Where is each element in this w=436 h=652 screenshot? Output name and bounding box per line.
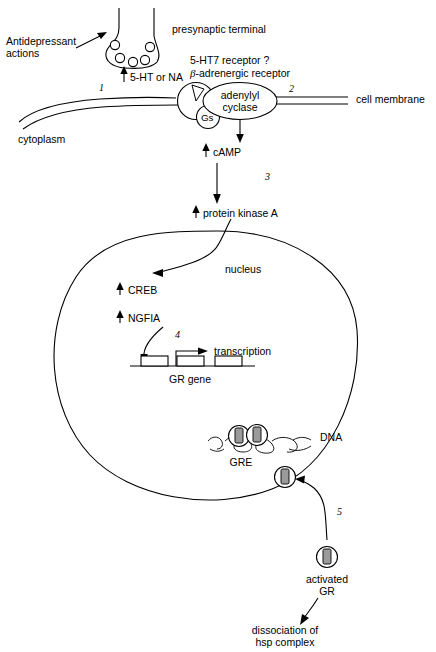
synaptic-vesicle: [110, 40, 119, 49]
antidepressant-actions-label-line1: Antidepressant: [6, 35, 76, 47]
synaptic-vesicle: [145, 42, 154, 51]
step-number-1: 1: [99, 82, 104, 93]
adenylyl-cyclase-label-line1: adenylyl: [221, 89, 260, 101]
dna-gre-group: [208, 425, 311, 454]
activated-gr-group: [317, 547, 338, 568]
receptor-complex-group: Gs adenylyl cyclase: [178, 83, 278, 129]
dna-strand-tail: [293, 437, 311, 440]
antidepressant-arrow: [76, 32, 107, 48]
activated-gr-label-line2: GR: [319, 585, 335, 597]
ngfia-increase-arrow: [116, 310, 123, 323]
step-number-3: 3: [264, 171, 270, 182]
diagram-canvas: presynaptic terminal Antidepressant acti…: [0, 0, 436, 652]
gr-gene-label: GR gene: [169, 373, 211, 385]
gr-gene-exon: [177, 356, 204, 366]
gr-receptor-core: [281, 469, 289, 484]
activated-gr-translocation-arrow: [295, 476, 327, 541]
dna-strand: [208, 437, 222, 449]
gr-receptor-core: [235, 428, 243, 443]
gr-entering-nucleus: [275, 467, 296, 488]
dna-strand-tail: [289, 446, 311, 450]
gr-gene-exon: [215, 356, 242, 366]
synaptic-vesicle: [140, 55, 149, 64]
presynaptic-terminal-label: presynaptic terminal: [172, 23, 266, 35]
cytoplasm-label: cytoplasm: [18, 133, 66, 145]
activated-gr-label-line1: activated: [306, 573, 348, 585]
antidepressant-actions-label-line2: actions: [6, 47, 39, 59]
pka-to-creb-arrow: [152, 219, 231, 277]
step-number-2: 2: [289, 83, 294, 94]
camp-increase-arrow: [202, 143, 209, 157]
adenylyl-cyclase-label-line2: cyclase: [222, 101, 257, 113]
gr-receptor-core: [323, 549, 331, 564]
cell-membrane-label: cell membrane: [356, 93, 425, 105]
hsp-dissociation-label-line2: hsp complex: [256, 636, 316, 648]
synaptic-vesicle: [128, 57, 137, 66]
gr-bound-at-gre: [247, 425, 268, 446]
hsp-dissociation-arrow: [300, 598, 318, 625]
nucleus-label: nucleus: [225, 263, 261, 275]
creb-label: CREB: [128, 284, 157, 296]
serotonin-or-na-label: 5-HT or NA: [130, 71, 183, 83]
cell-membrane-left-inner: [23, 105, 178, 129]
receptor-label-line2: β-adrenergic receptor: [189, 67, 291, 79]
protein-kinase-a-label: protein kinase A: [203, 207, 278, 219]
gr-receptor-core: [253, 427, 261, 442]
receptor-label-line1: 5-HT7 receptor ?: [190, 54, 270, 66]
pka-increase-arrow: [192, 205, 199, 218]
gs-protein-label: Gs: [201, 112, 214, 123]
camp-label: cAMP: [213, 146, 241, 158]
creb-increase-arrow: [116, 282, 123, 295]
synaptic-vesicle: [115, 53, 124, 62]
cyclase-to-camp-arrow: [236, 120, 244, 143]
adrenergic-receptor-text: -adrenergic receptor: [195, 67, 290, 79]
hsp-dissociation-label-line1: dissociation of: [252, 624, 319, 636]
gr-gene-exon: [141, 356, 168, 366]
signalling-pathway-diagram: presynaptic terminal Antidepressant acti…: [0, 0, 436, 652]
presynaptic-terminal-group: [106, 8, 159, 68]
gre-label: GRE: [230, 456, 253, 468]
ngfia-label: NGFIA: [128, 312, 160, 324]
step-number-4: 4: [175, 329, 180, 340]
dna-label: DNA: [320, 431, 342, 443]
transcription-label: transcription: [214, 345, 271, 357]
camp-to-pka-arrow: [213, 163, 221, 204]
step-number-5: 5: [337, 506, 342, 517]
